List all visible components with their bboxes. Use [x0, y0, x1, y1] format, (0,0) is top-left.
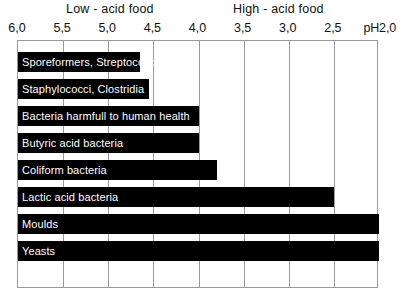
bar-row: Sporeformers, Streptococci	[18, 52, 379, 72]
bar-row: Moulds	[18, 214, 379, 234]
bar	[18, 133, 199, 153]
x-axis-tick-label: 3,0	[279, 21, 296, 35]
region-label-high-acid-food: High - acid food	[233, 2, 324, 16]
x-axis-tick-labels: 6,05,55,04,54,03,53,02,5pH2,0	[0, 21, 401, 38]
x-axis-tick-label: 5,5	[53, 21, 70, 35]
bar	[18, 106, 199, 126]
bar-row: Butyric acid bacteria	[18, 133, 379, 153]
x-axis-tick-label-ph-unit: pH2,0	[364, 21, 397, 35]
bar-row: Bacteria harmfull to human health	[18, 106, 379, 126]
bar	[18, 79, 149, 99]
x-axis-tick-label: 6,0	[8, 21, 25, 35]
ph-unit-prefix: pH	[364, 21, 379, 35]
bar-row: Yeasts	[18, 241, 379, 261]
bar	[18, 187, 334, 207]
plot-area: Sporeformers, StreptococciStaphylococci,…	[17, 40, 378, 288]
region-label-low-acid-food: Low - acid food	[66, 2, 154, 16]
bar	[18, 52, 140, 72]
bar	[18, 160, 217, 180]
x-axis-tick-value: 2,0	[379, 21, 396, 35]
x-axis-tick-label: 4,0	[189, 21, 206, 35]
bar-series: Sporeformers, StreptococciStaphylococci,…	[18, 41, 377, 287]
bar	[18, 214, 379, 234]
bar-row: Coliform bacteria	[18, 160, 379, 180]
bar-row: Staphylococci, Clostridia	[18, 79, 379, 99]
x-axis-tick-label: 3,5	[234, 21, 251, 35]
ph-growth-range-chart: Low - acid food High - acid food 6,05,55…	[0, 0, 401, 300]
bar-row: Lactic acid bacteria	[18, 187, 379, 207]
x-axis-tick-label: 5,0	[99, 21, 116, 35]
x-axis-tick-label: 2,5	[324, 21, 341, 35]
bar	[18, 241, 379, 261]
x-axis-tick-label: 4,5	[144, 21, 161, 35]
